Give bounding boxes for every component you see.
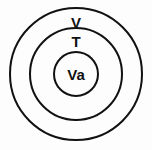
outer-region-label: V [71,14,81,31]
inner-region-label: Va [67,66,85,83]
diagram-canvas: V T Va [0,0,152,150]
concentric-circles-diagram: V T Va [0,0,152,150]
middle-region-label: T [71,33,80,50]
